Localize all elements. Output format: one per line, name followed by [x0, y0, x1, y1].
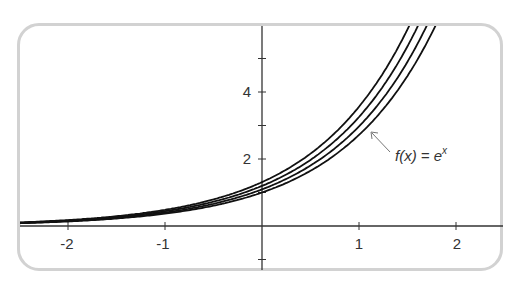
curve-2 — [10, 0, 454, 223]
annotation-arrow — [372, 133, 390, 152]
y-tick-label-4: 4 — [243, 83, 251, 100]
curve-group — [10, 0, 454, 224]
function-label: f(x) = ex — [395, 145, 448, 164]
curve-1 — [10, 0, 454, 224]
x-tick-label-neg2: -2 — [60, 235, 73, 252]
x-tick-label-neg1: -1 — [156, 235, 169, 252]
exponential-chart: -2 -1 1 2 4 2 f(x) = ex — [0, 0, 517, 290]
curve-4 — [10, 0, 454, 223]
x-tick-label-2: 2 — [453, 235, 461, 252]
y-tick-label-2: 2 — [243, 150, 251, 167]
curve-3 — [10, 0, 454, 223]
x-tick-label-1: 1 — [355, 235, 363, 252]
